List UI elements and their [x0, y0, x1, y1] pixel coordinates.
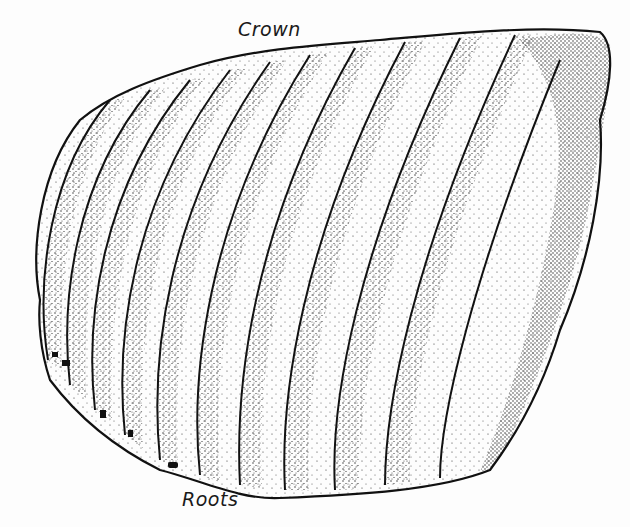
crown-label: Crown: [238, 18, 301, 40]
roots-label: Roots: [182, 488, 238, 510]
molar-illustration: Crown Roots: [0, 0, 630, 527]
tooth-drawing: [0, 0, 630, 527]
